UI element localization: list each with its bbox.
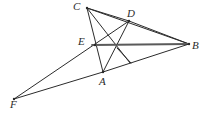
vertex-point-d: [128, 20, 130, 22]
vertex-label-d: D: [127, 8, 135, 19]
geometry-figure: CDBEAF: [0, 0, 204, 116]
vertex-label-a: A: [99, 76, 106, 87]
segment-hg: [117, 48, 131, 63]
vertex-point-e: [94, 44, 96, 46]
segment-af: [14, 72, 103, 99]
vertex-label-e: E: [78, 36, 85, 47]
vertex-point-a: [102, 71, 104, 73]
vertex-point-c: [86, 7, 88, 9]
vertex-label-f: F: [10, 99, 17, 110]
vertex-label-b: B: [192, 40, 199, 51]
figure-canvas: [0, 0, 204, 116]
vertex-label-c: C: [73, 1, 80, 12]
segment-db: [129, 21, 189, 44]
segment-df: [14, 21, 129, 99]
segment-ab: [103, 44, 189, 72]
vertex-point-b: [188, 43, 190, 45]
segment-eb: [92, 44, 189, 45]
